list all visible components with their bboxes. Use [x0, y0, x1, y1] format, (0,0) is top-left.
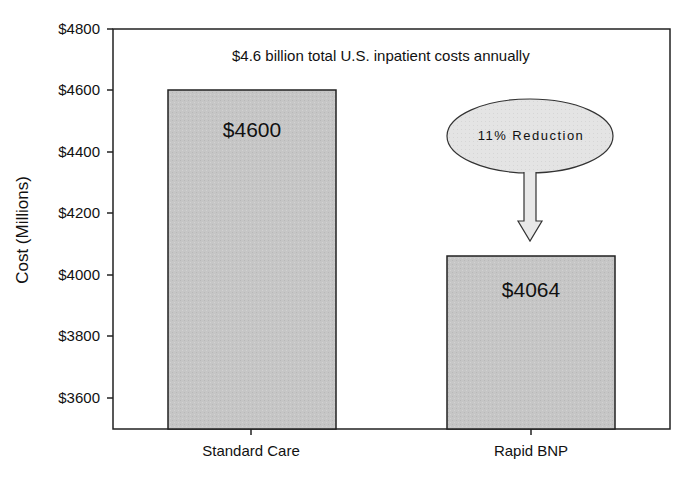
x-tick-label: Rapid BNP: [431, 442, 631, 459]
bar-value-label: $4064: [447, 278, 615, 302]
x-axis-ticks: [251, 429, 531, 435]
bar-value-label: $4600: [168, 118, 336, 142]
chart-canvas: [0, 0, 693, 481]
y-tick-label: $3600: [2, 390, 100, 406]
y-axis-label: Cost (Millions): [13, 165, 33, 295]
top-annotation: $4.6 billion total U.S. inpatient costs …: [232, 47, 530, 64]
y-tick-label: $4600: [2, 82, 100, 98]
y-tick-label: $4400: [2, 144, 100, 160]
y-tick-label: $3800: [2, 328, 100, 344]
y-tick-label: $4800: [2, 21, 100, 37]
x-tick-label: Standard Care: [151, 442, 351, 459]
y-axis-ticks: [107, 29, 113, 398]
reduction-label: 11% Reduction: [447, 128, 615, 143]
